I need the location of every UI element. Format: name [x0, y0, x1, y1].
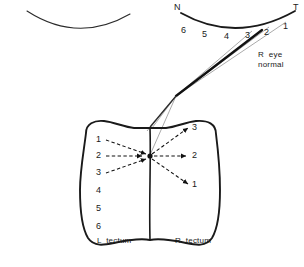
tectal-mapping-arrows	[106, 128, 188, 184]
retina-position-1: 1	[283, 21, 288, 31]
retina-position-5: 5	[202, 29, 207, 39]
right-tectum-label: R tectum	[175, 236, 211, 245]
tectum-midline	[150, 128, 151, 240]
eye-annotation-line2: normal	[258, 60, 284, 70]
retina-position-6: 6	[181, 25, 186, 35]
tectum-left-number-4: 4	[96, 185, 101, 195]
nerve-entry-line	[150, 96, 176, 127]
tectum-right-number-2: 2	[192, 150, 197, 160]
eye-annotation-line1: R eye	[258, 50, 282, 60]
retina-position-4: 4	[224, 31, 229, 41]
tectum-right-number-1: 1	[192, 179, 197, 189]
tectum-left-number-2: 2	[96, 150, 101, 160]
tectum-left-number-3: 3	[96, 167, 101, 177]
convergence-node	[147, 153, 152, 158]
tectum-left-number-1: 1	[96, 134, 101, 144]
retina-temporal-label: T	[293, 2, 299, 12]
tectum-left-number-5: 5	[96, 203, 101, 213]
retina-position-3: 3	[245, 30, 250, 40]
right-retina-arc	[181, 11, 295, 28]
tectum-right-number-3: 3	[192, 122, 197, 132]
retinotectal-diagram: N T 6 5 4 3 2 1 R eye normal 1 2 3 4 5 6…	[0, 0, 304, 267]
left-tectum-label: L tectum	[97, 236, 131, 245]
retina-nasal-label: N	[174, 2, 181, 12]
tectum-left-number-6: 6	[96, 221, 101, 231]
retina-position-2: 2	[264, 27, 269, 37]
diagram-canvas	[0, 0, 304, 267]
left-retina-arc	[27, 11, 130, 28]
